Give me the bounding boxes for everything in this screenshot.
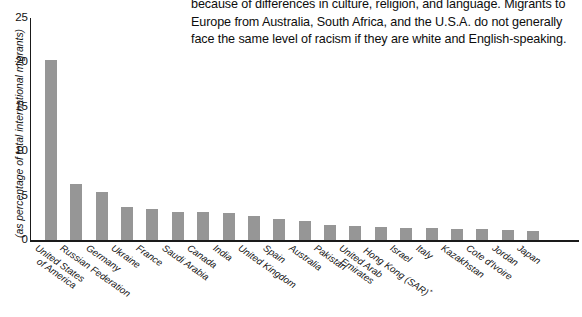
x-category-label: Japan (515, 243, 542, 267)
bar (70, 184, 82, 240)
bar (527, 231, 539, 240)
bar (146, 209, 158, 240)
bar (223, 213, 235, 240)
bar-chart: 0510152025 (as percentage of total inter… (0, 0, 582, 317)
bar (248, 216, 260, 240)
bar (172, 212, 184, 240)
y-axis-title: (as percentage of total international mi… (14, 19, 25, 249)
x-axis-category-labels: United Statesof AmericaRussian Federatio… (31, 243, 579, 317)
bar (299, 221, 311, 240)
bar (426, 228, 438, 240)
bar (502, 230, 514, 240)
bar (96, 192, 108, 240)
bar (375, 227, 387, 240)
bar (197, 212, 209, 240)
bar (273, 219, 285, 240)
bar (324, 225, 336, 240)
bar (451, 229, 463, 240)
bar (476, 229, 488, 240)
bar (400, 228, 412, 240)
bar (45, 60, 57, 240)
bar (121, 207, 133, 240)
x-category-label: Italy (414, 243, 434, 262)
bar (349, 226, 361, 240)
